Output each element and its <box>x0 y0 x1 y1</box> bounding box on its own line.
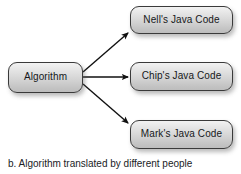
algorithm-translation-diagram: Algorithm Nell's Java Code Chip's Java C… <box>0 0 241 174</box>
arrow-algorithm-to-nell <box>83 33 128 72</box>
node-algorithm: Algorithm <box>8 62 83 93</box>
node-nells-java-code-label: Nell's Java Code <box>143 15 219 26</box>
figure-caption: b. Algorithm translated by different peo… <box>8 158 192 170</box>
node-nells-java-code: Nell's Java Code <box>130 6 233 34</box>
node-marks-java-code-label: Mark's Java Code <box>141 129 222 140</box>
node-chips-java-code-label: Chip's Java Code <box>142 71 222 82</box>
arrow-algorithm-to-mark <box>83 84 128 123</box>
node-marks-java-code: Mark's Java Code <box>130 120 233 149</box>
node-chips-java-code: Chip's Java Code <box>130 62 233 91</box>
node-algorithm-label: Algorithm <box>24 72 67 83</box>
